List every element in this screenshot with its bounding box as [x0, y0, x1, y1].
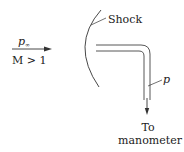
tube-outer-wall [96, 45, 150, 100]
pitot-tube-diagram: p∞ M > 1 Shock p To manometer [0, 0, 184, 152]
pitot-tube [96, 45, 150, 100]
outlet-label-manometer: manometer [118, 134, 183, 147]
tube-inner-wall [96, 51, 144, 100]
probe-pressure-label: p [163, 73, 170, 86]
mach-label: M > 1 [12, 54, 46, 67]
shock-leader-line [91, 18, 106, 25]
outlet-arrow [145, 98, 149, 115]
freestream-pressure-label: p∞ [18, 35, 30, 48]
shock-label: Shock [108, 13, 142, 26]
outlet-label-to: To [141, 121, 154, 134]
